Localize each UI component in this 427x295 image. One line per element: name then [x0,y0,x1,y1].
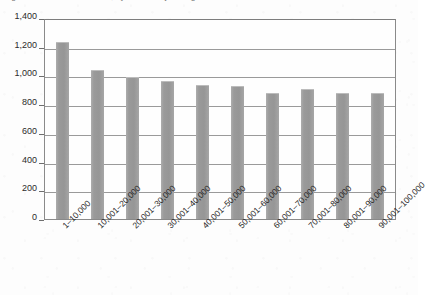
y-axis-tick-label: 1,200 [14,41,37,50]
x-axis-tick: 70,001–80,000 [290,221,325,295]
x-axis-tick: 90,001–100,000 [361,221,396,295]
x-axis-tick: 50,001–60,000 [220,221,255,295]
y-axis-tick-label: 1,400 [14,12,37,21]
x-axis-tick: 1–10,000 [44,221,79,295]
y-axis-tick-label: 600 [22,127,37,136]
figure-caption-text: Figure 1. Number of returns, by size of … [4,0,243,1]
bar-slot [45,20,80,219]
x-axis-tick: 10,001–20,000 [79,221,114,295]
x-axis: 1–10,00010,001–20,00020,001–30,00030,001… [44,221,396,295]
bar[interactable] [91,70,104,219]
x-axis-tick: 60,001–70,000 [255,221,290,295]
y-axis-tick-label: 1,000 [14,69,37,78]
x-axis-tick: 80,001–90,000 [326,221,361,295]
x-axis-tick: 20,001–30,000 [114,221,149,295]
y-axis-tick-label: 0 [32,213,37,222]
x-axis-tick: 40,001–50,000 [185,221,220,295]
y-axis-tick-label: 200 [22,184,37,193]
figure-caption-cropped: Figure 1. Number of returns, by size of … [0,0,418,11]
y-axis-tick-label: 800 [22,98,37,107]
y-axis-tick-label: 400 [22,156,37,165]
bar[interactable] [56,42,69,219]
y-axis: 02004006008001,0001,2001,400 [0,19,44,220]
bar-slot [80,20,115,219]
x-axis-tick: 30,001–40,000 [150,221,185,295]
